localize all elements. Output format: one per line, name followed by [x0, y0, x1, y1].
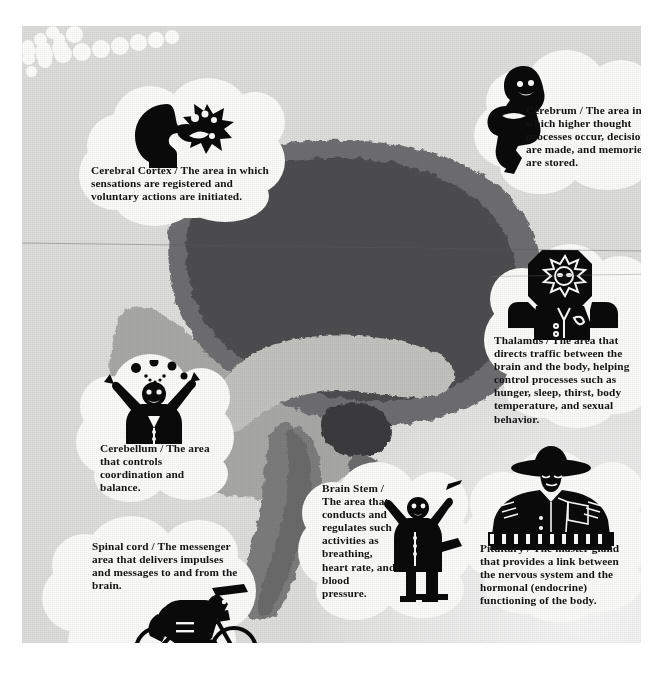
- callout-text-spinal-cord: Spinal cord / The messenger area that de…: [92, 540, 244, 592]
- scanned-page: Cerebral Cortex / The area in which sens…: [0, 0, 663, 679]
- callout-cerebellum[interactable]: Cerebellum / The area that controls coor…: [76, 350, 236, 510]
- callout-spinal-cord[interactable]: Spinal cord / The messenger area that de…: [42, 514, 260, 643]
- callout-text-thalamus: Thalamus / The area that directs traffic…: [494, 334, 641, 426]
- paper-sheet: Cerebral Cortex / The area in which sens…: [22, 26, 641, 643]
- head-profile-burst-icon: [119, 96, 239, 168]
- callout-text-cerebrum: Cerebrum / The area in which higher thou…: [526, 104, 641, 169]
- callout-thalamus[interactable]: Thalamus / The area that directs traffic…: [484, 234, 641, 430]
- callout-cerebral-cortex[interactable]: Cerebral Cortex / The area in which sens…: [79, 78, 291, 230]
- juggler-icon: [102, 360, 206, 444]
- callout-text-pituitary: Pituitary / The master gland that provid…: [480, 542, 628, 607]
- callout-text-brain-stem: Brain Stem / The area that conducts and …: [322, 482, 396, 600]
- callout-pituitary[interactable]: Pituitary / The master gland that provid…: [462, 446, 641, 622]
- traffic-officer-icon: [506, 246, 624, 340]
- uniformed-officer-icon: [484, 446, 618, 552]
- callout-brain-stem[interactable]: Brain Stem / The area that conducts and …: [298, 460, 476, 628]
- callout-text-cerebellum: Cerebellum / The area that controls coor…: [100, 442, 218, 494]
- callout-text-cerebral-cortex: Cerebral Cortex / The area in which sens…: [91, 164, 277, 203]
- callout-cerebrum[interactable]: Cerebrum / The area in which higher thou…: [474, 50, 641, 200]
